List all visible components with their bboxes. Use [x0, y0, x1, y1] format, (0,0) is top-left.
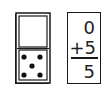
domino-graphic — [14, 12, 51, 85]
domino-top-half — [19, 16, 47, 47]
pip-icon — [21, 72, 26, 77]
addend-2: +5 — [69, 39, 96, 57]
addition-card: 0 +5 5 — [67, 12, 101, 84]
addend-1: 0 — [84, 19, 95, 37]
pip-icon — [37, 72, 42, 77]
pip-icon — [29, 63, 34, 68]
sum-line — [71, 57, 98, 59]
pip-icon — [37, 54, 42, 59]
domino — [14, 12, 51, 85]
sum: 5 — [84, 63, 95, 81]
pip-icon — [21, 54, 26, 59]
